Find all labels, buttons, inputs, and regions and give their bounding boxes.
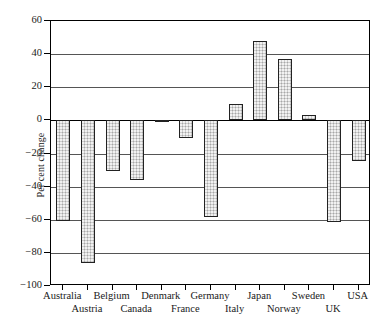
bar-norway xyxy=(278,59,292,120)
bar-chart: Per cent change 6040200−20−40−60−80−100 … xyxy=(0,0,385,330)
gridline xyxy=(51,54,369,55)
y-axis-tick xyxy=(44,119,50,120)
x-axis-label-austria: Austria xyxy=(71,304,102,315)
bar-austria xyxy=(81,120,95,262)
x-axis-label-uk: UK xyxy=(325,304,340,315)
x-axis-label-usa: USA xyxy=(347,291,368,302)
y-axis-label: −60 xyxy=(0,214,42,225)
y-axis-tick xyxy=(44,86,50,87)
bar-usa xyxy=(352,120,366,161)
gridline xyxy=(51,87,369,88)
bar-france xyxy=(179,120,193,137)
y-axis-tick xyxy=(44,153,50,154)
x-axis-tick xyxy=(185,285,186,290)
x-axis-label-france: France xyxy=(171,304,200,315)
x-axis-tick xyxy=(235,285,236,290)
x-axis-tick xyxy=(284,285,285,290)
bar-japan xyxy=(253,41,267,121)
y-axis-label: −100 xyxy=(0,280,42,291)
x-axis-label-belgium: Belgium xyxy=(93,291,129,302)
y-axis-label: 20 xyxy=(0,81,42,92)
bar-uk xyxy=(327,120,341,222)
bar-sweden xyxy=(302,115,316,120)
bar-belgium xyxy=(106,120,120,171)
x-axis-label-italy: Italy xyxy=(225,304,244,315)
plot-area xyxy=(50,20,370,285)
gridline xyxy=(51,253,369,254)
y-axis-tick xyxy=(44,53,50,54)
x-axis-label-sweden: Sweden xyxy=(292,291,325,302)
y-axis-label: −20 xyxy=(0,147,42,158)
y-axis-label: −40 xyxy=(0,180,42,191)
y-axis-label: −80 xyxy=(0,247,42,258)
x-axis-label-germany: Germany xyxy=(190,291,229,302)
y-axis-tick xyxy=(44,252,50,253)
y-axis-label: 40 xyxy=(0,48,42,59)
bar-canada xyxy=(130,120,144,180)
y-axis-tick xyxy=(44,285,50,286)
gridline xyxy=(51,220,369,221)
y-axis-tick xyxy=(44,219,50,220)
x-axis-tick xyxy=(333,285,334,290)
y-axis-tick xyxy=(44,186,50,187)
x-axis-tick xyxy=(136,285,137,290)
y-axis-label: 60 xyxy=(0,15,42,26)
bar-australia xyxy=(56,120,70,220)
y-axis-tick xyxy=(44,20,50,21)
x-axis-label-canada: Canada xyxy=(120,304,152,315)
x-axis-label-norway: Norway xyxy=(267,304,301,315)
x-axis-label-denmark: Denmark xyxy=(141,291,180,302)
bar-germany xyxy=(204,120,218,217)
x-axis-tick xyxy=(87,285,88,290)
x-axis-label-australia: Australia xyxy=(43,291,82,302)
y-axis-label: 0 xyxy=(0,114,42,125)
bar-italy xyxy=(229,104,243,121)
x-axis-label-japan: Japan xyxy=(247,291,271,302)
bar-denmark xyxy=(155,120,169,122)
